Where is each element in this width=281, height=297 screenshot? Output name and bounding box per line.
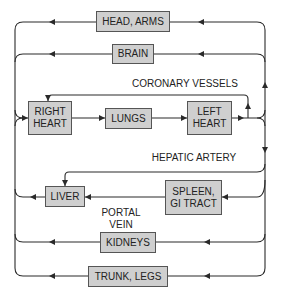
head-arms-box: HEAD, ARMS: [96, 11, 170, 32]
trunk-legs-label: TRUNK, LEGS: [95, 271, 162, 283]
hepatic-artery-label: HEPATIC ARTERY: [148, 152, 240, 164]
liver-label: LIVER: [51, 191, 80, 203]
brain-box: BRAIN: [112, 44, 154, 64]
portal-vein-label: PORTAL VEIN: [96, 207, 146, 231]
kidneys-label: KIDNEYS: [106, 237, 150, 249]
liver-box: LIVER: [45, 186, 85, 207]
left-heart-label: LEFT HEART: [193, 106, 227, 130]
trunk-legs-box: TRUNK, LEGS: [88, 266, 168, 287]
right-heart-label: RIGHT HEART: [33, 106, 67, 130]
left-heart-box: LEFT HEART: [187, 101, 232, 135]
head-arms-label: HEAD, ARMS: [102, 16, 164, 28]
brain-label: BRAIN: [118, 48, 149, 60]
coronary-vessels-label: CORONARY VESSELS: [128, 78, 242, 90]
right-heart-box: RIGHT HEART: [28, 101, 72, 135]
kidneys-box: KIDNEYS: [100, 232, 156, 253]
spleen-gi-tract-label: SPLEEN, GI TRACT: [170, 186, 216, 210]
lungs-box: LUNGS: [105, 108, 152, 129]
spleen-gi-tract-box: SPLEEN, GI TRACT: [165, 180, 222, 215]
lungs-label: LUNGS: [111, 113, 145, 125]
